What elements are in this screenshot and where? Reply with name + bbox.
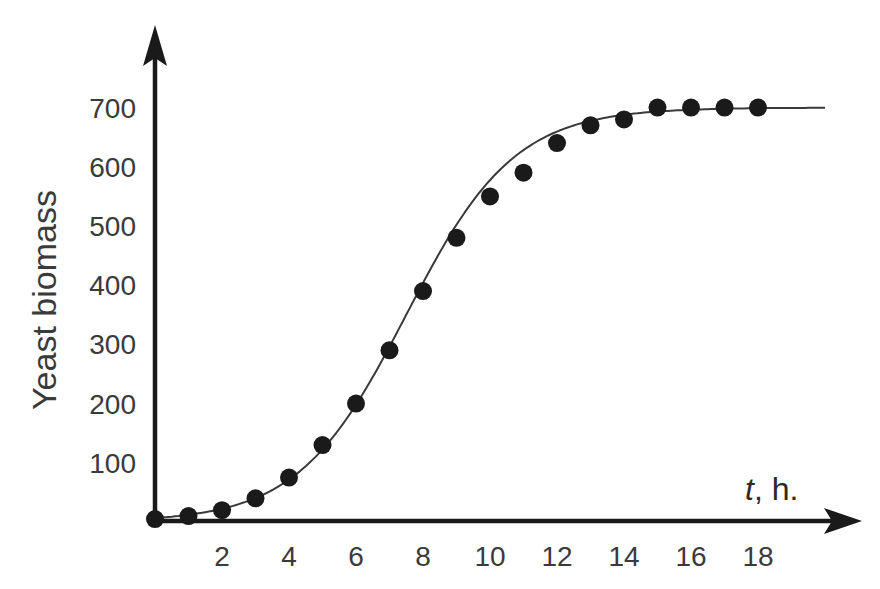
- y-tick-label: 100: [89, 448, 136, 479]
- data-point: [448, 229, 466, 247]
- y-tick-labels: 100200300400500600700: [89, 93, 136, 479]
- x-tick-label: 2: [214, 541, 230, 572]
- y-tick-label: 500: [89, 211, 136, 242]
- y-tick-label: 300: [89, 329, 136, 360]
- data-point: [314, 436, 332, 454]
- data-point: [716, 99, 734, 117]
- data-point: [414, 282, 432, 300]
- x-tick-label: 16: [675, 541, 706, 572]
- y-axis-label: Yeast biomass: [25, 190, 63, 410]
- data-point: [481, 187, 499, 205]
- data-point: [347, 395, 365, 413]
- data-points: [146, 99, 767, 528]
- x-tick-label: 10: [474, 541, 505, 572]
- data-point: [615, 110, 633, 128]
- y-tick-label: 600: [89, 152, 136, 183]
- x-tick-label: 18: [742, 541, 773, 572]
- x-tick-label: 14: [608, 541, 639, 572]
- data-point: [180, 507, 198, 525]
- y-axis-title: Yeast biomass: [25, 190, 63, 410]
- logistic-fit-curve: [155, 108, 825, 518]
- data-point: [280, 469, 298, 487]
- y-tick-label: 400: [89, 270, 136, 301]
- x-tick-label: 6: [348, 541, 364, 572]
- x-tick-labels: 24681012141618: [214, 541, 773, 572]
- data-point: [381, 341, 399, 359]
- data-point: [146, 510, 164, 528]
- data-point: [749, 99, 767, 117]
- data-point: [515, 164, 533, 182]
- y-tick-label: 700: [89, 93, 136, 124]
- x-axis: [148, 508, 862, 534]
- x-tick-label: 12: [541, 541, 572, 572]
- data-point: [548, 134, 566, 152]
- data-point: [247, 489, 265, 507]
- x-axis-label: t, h.: [745, 471, 798, 507]
- data-point: [649, 99, 667, 117]
- data-point: [213, 501, 231, 519]
- data-point: [682, 99, 700, 117]
- x-tick-label: 8: [415, 541, 431, 572]
- data-point: [582, 116, 600, 134]
- y-axis: [143, 25, 167, 526]
- chart: Yeast biomass 100200300400500600700 2468…: [0, 0, 880, 589]
- y-tick-label: 200: [89, 389, 136, 420]
- x-tick-label: 4: [281, 541, 297, 572]
- x-axis-unit: , h.: [754, 471, 798, 507]
